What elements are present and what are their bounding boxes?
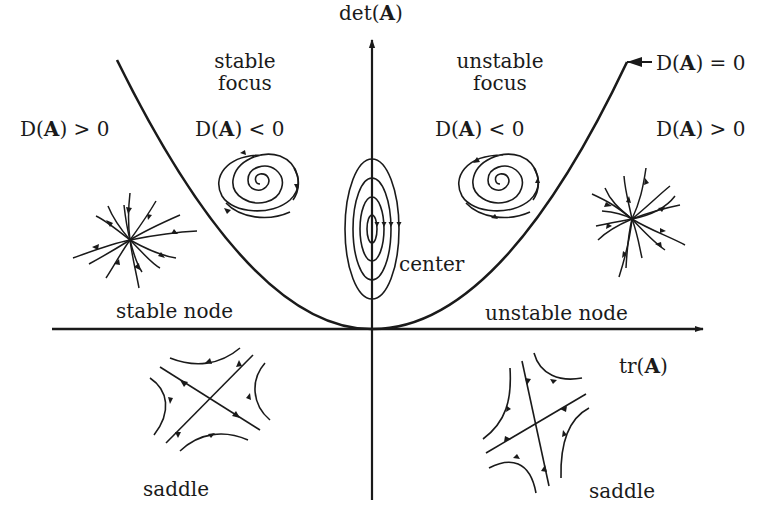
stable-node-label: stable node — [116, 300, 233, 322]
unstable-focus-label: unstable focus — [445, 50, 555, 94]
stable-focus-label-line2: focus — [200, 72, 290, 94]
trace-determinant-diagram — [0, 0, 783, 526]
region-label-prefix: D( — [20, 117, 44, 141]
region-inner-right-label: D(A) < 0 — [435, 118, 524, 140]
region-outer-left-label: D(A) > 0 — [20, 118, 109, 140]
saddle-right-label: saddle — [589, 480, 655, 502]
region-label-suffix: ) > 0 — [695, 117, 745, 141]
axes — [52, 40, 703, 500]
unstable-focus-label-line1: unstable — [445, 50, 555, 72]
vertical-axis-label-prefix: det( — [339, 1, 379, 25]
stable-node-portrait-icon — [73, 193, 197, 288]
parabola-left-branch — [117, 60, 372, 329]
stable-focus-label: stable focus — [200, 50, 290, 94]
region-label-bold: A — [44, 117, 60, 141]
parabola-right-branch — [372, 62, 627, 329]
center-label: center — [399, 253, 464, 275]
saddle-left-portrait-icon — [150, 348, 270, 451]
saddle-left-label: saddle — [143, 478, 209, 500]
center-portrait-icon — [345, 159, 402, 299]
unstable-focus-label-line2: focus — [445, 72, 555, 94]
region-outer-right-label: D(A) > 0 — [656, 118, 745, 140]
horizontal-axis-label: tr(A) — [619, 355, 668, 377]
region-label-bold: A — [459, 117, 475, 141]
saddle-right-portrait-icon — [483, 353, 589, 493]
region-label-prefix: D( — [656, 117, 680, 141]
vertical-axis-label: det(A) — [339, 2, 403, 24]
curve-label-prefix: D( — [656, 51, 680, 75]
curve-label: D(A) = 0 — [656, 52, 745, 74]
region-label-suffix: ) < 0 — [474, 117, 524, 141]
region-label-bold: A — [680, 117, 696, 141]
stable-focus-spiral-icon — [219, 150, 299, 218]
region-label-prefix: D( — [435, 117, 459, 141]
region-label-suffix: ) < 0 — [234, 117, 284, 141]
region-label-bold: A — [219, 117, 235, 141]
horizontal-axis-label-bold: A — [644, 354, 660, 378]
horizontal-axis-label-prefix: tr( — [619, 354, 644, 378]
curve-label-arrow-icon — [627, 57, 642, 67]
unstable-focus-spiral-icon — [459, 154, 540, 219]
horizontal-axis-label-suffix: ) — [660, 354, 668, 378]
unstable-node-label: unstable node — [485, 302, 628, 324]
curve-label-bold: A — [680, 51, 696, 75]
region-label-suffix: ) > 0 — [59, 117, 109, 141]
curve-label-suffix: ) = 0 — [695, 51, 745, 75]
vertical-axis-label-suffix: ) — [395, 1, 403, 25]
unstable-node-portrait-icon — [592, 168, 685, 277]
stable-focus-label-line1: stable — [200, 50, 290, 72]
vertical-axis-label-bold: A — [379, 1, 395, 25]
region-label-prefix: D( — [195, 117, 219, 141]
discriminant-zero-curve — [117, 57, 652, 329]
region-inner-left-label: D(A) < 0 — [195, 118, 284, 140]
